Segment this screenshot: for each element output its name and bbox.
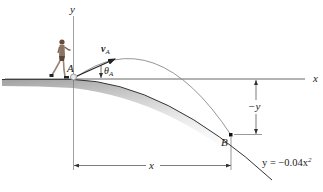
angle-label: θA [104, 65, 114, 78]
projectile-diagram: x y A vA θA B −y x y = −0.04x2 [0, 0, 323, 192]
point-b-marker [229, 133, 233, 137]
ground-shading [2, 79, 272, 180]
trajectory-arc [75, 59, 231, 135]
ball-point-a [71, 74, 77, 80]
y-axis-label: y [69, 3, 75, 15]
ground-equation: y = −0.04x2 [262, 156, 312, 168]
velocity-label: vA [101, 43, 110, 56]
x-axis-label: x [312, 72, 318, 84]
point-b-label: B [221, 136, 228, 148]
vertical-dimension-label: −y [248, 100, 260, 112]
horizontal-dimension-label: x [148, 159, 154, 171]
point-a-label: A [66, 62, 74, 74]
